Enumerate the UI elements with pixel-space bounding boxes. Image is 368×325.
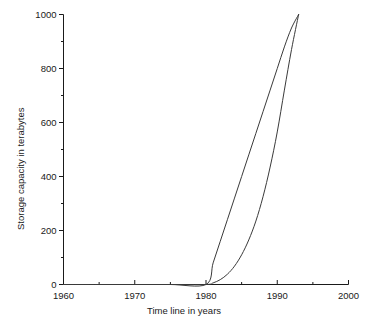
plot-area: [0, 0, 368, 325]
series-lower-bound-curve: [64, 15, 299, 285]
y-tick-label: 0: [17, 280, 57, 290]
x-tick-label: 1980: [186, 291, 226, 301]
y-tick-label: 1000: [17, 10, 57, 20]
x-tick-label: 1960: [44, 291, 84, 301]
x-tick-label: 1970: [115, 291, 155, 301]
series-upper-bound-curve: [64, 15, 299, 287]
x-tick-label: 1990: [257, 291, 297, 301]
x-axis-title: Time line in years: [0, 306, 368, 316]
y-tick-label: 400: [17, 172, 57, 182]
y-tick-label: 200: [17, 226, 57, 236]
y-tick-label: 600: [17, 118, 57, 128]
y-tick-label: 800: [17, 64, 57, 74]
x-tick-label: 2000: [329, 291, 368, 301]
storage-capacity-chart: Storage capacity in terabytes Time line …: [0, 0, 368, 325]
